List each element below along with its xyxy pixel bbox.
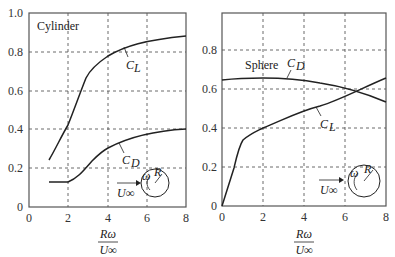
- cylinder-plot: 0 0.2 0.4 0.6 0.8 1.0 0 2 4 6 8 Cylinder…: [8, 6, 189, 257]
- cd-label: C D: [287, 56, 305, 73]
- svg-text:0.6: 0.6: [8, 84, 23, 98]
- plot-frame: [29, 13, 186, 207]
- svg-text:R: R: [153, 165, 162, 179]
- svg-text:L: L: [328, 120, 336, 134]
- svg-text:U∞: U∞: [99, 243, 117, 257]
- svg-text:ω: ω: [350, 166, 358, 180]
- svg-text:0.2: 0.2: [8, 161, 23, 175]
- svg-text:Rω: Rω: [99, 227, 116, 241]
- svg-text:0: 0: [219, 210, 225, 224]
- svg-text:U∞: U∞: [295, 243, 313, 257]
- svg-text:D: D: [295, 59, 305, 73]
- svg-text:4: 4: [105, 211, 111, 225]
- svg-text:R: R: [363, 162, 372, 176]
- svg-text:0: 0: [26, 211, 32, 225]
- cl-label: C L: [320, 117, 336, 134]
- svg-text:6: 6: [342, 210, 348, 224]
- svg-text:1.0: 1.0: [8, 6, 23, 20]
- svg-text:2: 2: [260, 210, 266, 224]
- svg-text:6: 6: [144, 211, 150, 225]
- svg-text:U∞: U∞: [320, 183, 338, 197]
- x-axis-label: Rω U∞: [98, 227, 118, 257]
- svg-text:0.6: 0.6: [202, 82, 217, 96]
- svg-text:4: 4: [301, 210, 307, 224]
- svg-text:0: 0: [211, 199, 217, 213]
- rotating-cylinder-inset: U∞ ω R: [117, 165, 169, 200]
- plot-title: Cylinder: [37, 19, 79, 33]
- y-tick-labels: 0 0.2 0.4 0.6 0.8 1.0: [8, 6, 23, 214]
- svg-text:U∞: U∞: [117, 186, 135, 200]
- svg-text:0.2: 0.2: [202, 160, 217, 174]
- grid-lines: [222, 13, 386, 206]
- svg-text:0.4: 0.4: [8, 122, 23, 136]
- x-tick-labels: 0 2 4 6 8: [26, 211, 189, 225]
- x-axis-label: Rω U∞: [294, 227, 314, 257]
- svg-text:8: 8: [383, 210, 389, 224]
- svg-text:2: 2: [65, 211, 71, 225]
- cl-curve: [49, 36, 186, 160]
- plot-title: Sphere: [245, 58, 278, 72]
- svg-text:ω: ω: [142, 169, 150, 183]
- rotating-sphere-inset: U∞ ω R: [319, 162, 380, 197]
- sphere-plot: 0 0.2 0.4 0.6 0.8 0 2 4 6 8 Sphere C D C…: [202, 13, 389, 257]
- svg-text:Rω: Rω: [295, 227, 312, 241]
- svg-text:0.8: 0.8: [8, 45, 23, 59]
- y-tick-labels: 0 0.2 0.4 0.6 0.8: [202, 43, 217, 213]
- svg-text:L: L: [133, 61, 141, 75]
- x-tick-labels: 0 2 4 6 8: [219, 210, 389, 224]
- svg-text:C: C: [320, 117, 329, 131]
- grid-lines: [29, 13, 186, 207]
- chart-canvas: 0 0.2 0.4 0.6 0.8 1.0 0 2 4 6 8 Cylinder…: [0, 0, 395, 257]
- svg-text:0: 0: [17, 200, 23, 214]
- svg-text:D: D: [130, 156, 140, 170]
- cl-label: C L: [126, 58, 141, 75]
- svg-text:0.8: 0.8: [202, 43, 217, 57]
- svg-text:C: C: [287, 56, 296, 70]
- svg-text:0.4: 0.4: [202, 121, 217, 135]
- cd-label: C D: [122, 153, 140, 170]
- svg-text:C: C: [122, 153, 131, 167]
- svg-text:8: 8: [183, 211, 189, 225]
